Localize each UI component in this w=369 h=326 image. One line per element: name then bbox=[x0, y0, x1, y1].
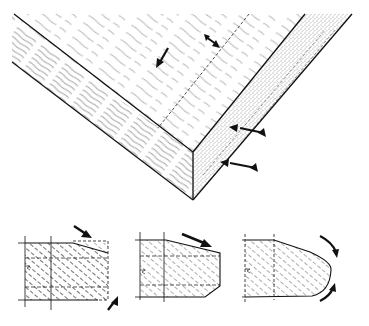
arrow-icon bbox=[74, 226, 92, 238]
arrow-icon bbox=[108, 296, 118, 310]
arrow-icon bbox=[320, 236, 339, 258]
profile-chamfer-top-dashed bbox=[18, 236, 108, 310]
arrow-icon bbox=[220, 159, 258, 172]
panel-diagram bbox=[0, 0, 369, 326]
diagram-canvas bbox=[0, 0, 369, 326]
panel-corner bbox=[12, 14, 352, 200]
profile-rounded-nose bbox=[242, 234, 331, 302]
